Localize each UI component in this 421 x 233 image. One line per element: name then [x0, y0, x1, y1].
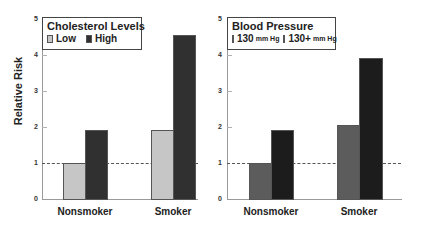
left-ytick-1: 1: [28, 159, 38, 166]
left-ytick-0: 0: [28, 195, 38, 202]
right-tick-4: [227, 55, 232, 56]
legend-130plus-unit: mm Hg: [313, 33, 337, 45]
legend-130-num: 130: [237, 33, 254, 45]
left-ytick-2: 2: [28, 123, 38, 130]
bar-smoker-130: [337, 125, 360, 200]
130plus-swatch-icon: [283, 35, 285, 43]
blood-pressure-legend: Blood Pressure 130 mm Hg 130+ mm Hg: [227, 17, 336, 50]
legend-high: High: [95, 33, 117, 45]
bar-nonsmoker-130plus: [271, 130, 294, 200]
high-swatch-icon: [86, 35, 92, 43]
bar-smoker-high: [173, 35, 196, 200]
bar-smoker-low: [151, 130, 174, 200]
right-ytick-5: 5: [212, 15, 222, 22]
bar-nonsmoker-low: [63, 163, 86, 200]
left-category-smoker: Smoker: [128, 206, 218, 217]
legend-title: Cholesterol Levels: [47, 20, 137, 33]
130-swatch-icon: [232, 35, 234, 43]
bar-smoker-130plus: [359, 58, 383, 200]
right-ytick-1: 1: [212, 159, 222, 166]
left-ytick-3: 3: [28, 87, 38, 94]
right-category-smoker: Smoker: [314, 206, 404, 217]
left-ytick-4: 4: [28, 51, 38, 58]
y-axis-label: Relative Risk: [12, 51, 24, 131]
legend-130plus-num: 130+: [288, 33, 311, 45]
right-tick-3: [227, 91, 232, 92]
left-ytick-5: 5: [28, 15, 38, 22]
right-ytick-0: 0: [212, 195, 222, 202]
right-ytick-4: 4: [212, 51, 222, 58]
right-ytick-3: 3: [212, 87, 222, 94]
cholesterol-legend: Cholesterol Levels Low High: [42, 17, 142, 50]
right-ytick-2: 2: [212, 123, 222, 130]
left-tick-2: [42, 127, 47, 128]
legend-title: Blood Pressure: [232, 20, 331, 33]
legend-130-unit: mm Hg: [256, 33, 280, 45]
low-swatch-icon: [47, 35, 53, 43]
left-tick-3: [42, 91, 47, 92]
right-tick-2: [227, 127, 232, 128]
bar-nonsmoker-130: [249, 163, 272, 200]
left-category-nonsmoker: Nonsmoker: [40, 206, 130, 217]
left-tick-4: [42, 55, 47, 56]
bar-nonsmoker-high: [85, 130, 108, 200]
right-category-nonsmoker: Nonsmoker: [226, 206, 316, 217]
legend-low: Low: [56, 33, 76, 45]
